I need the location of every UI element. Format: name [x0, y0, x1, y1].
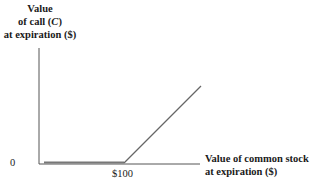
y-tick-zero: 0 [10, 157, 15, 168]
x-tick-strike: $100 [112, 168, 133, 179]
x-axis-label-line2: at expiration ($) [205, 165, 309, 178]
rising-payoff-line [124, 86, 201, 163]
x-axis-label-line1: Value of common stock [205, 152, 309, 165]
x-axis-label: Value of common stock at expiration ($) [205, 152, 309, 178]
